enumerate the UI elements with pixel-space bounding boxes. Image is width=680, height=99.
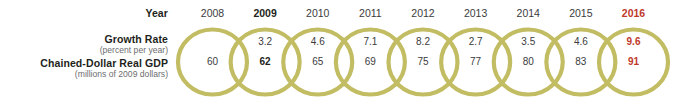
gdp-value: 77 [459,56,493,67]
year-label: 2010 [294,7,342,19]
gdp-value: 83 [564,56,598,67]
year-label: 2011 [346,7,394,19]
row-sublabel-growth-rate: (percent per year) [100,45,168,55]
chained-dollar-gdp-chain-figure: Year Growth Rate (percent per year) Chai… [0,0,680,99]
year-label: 2009 [241,7,289,19]
growth-rate-value: 9.6 [617,36,651,47]
gdp-value: 91 [617,56,651,67]
gdp-value: 60 [196,56,230,67]
growth-rate-value: 7.1 [353,36,387,47]
gdp-value: 75 [406,56,440,67]
gdp-value: 69 [353,56,387,67]
gdp-value: 62 [248,56,282,67]
year-label: 2014 [504,7,552,19]
gdp-value: 80 [511,56,545,67]
growth-rate-value: 8.2 [406,36,440,47]
year-label: 2012 [399,7,447,19]
gdp-value: 65 [301,56,335,67]
row-label-gdp: Chained-Dollar Real GDP [40,57,168,69]
growth-rate-value: 4.6 [564,36,598,47]
year-label: 2008 [189,7,237,19]
year-label: 2015 [557,7,605,19]
growth-rate-value: 3.5 [511,36,545,47]
year-label: 2013 [452,7,500,19]
growth-rate-value: 2.7 [459,36,493,47]
growth-rate-value: 4.6 [301,36,335,47]
row-label-year: Year [145,7,168,19]
row-sublabel-gdp: (millions of 2009 dollars) [75,69,168,79]
year-label: 2016 [610,7,658,19]
row-label-growth-rate: Growth Rate [104,33,168,45]
growth-rate-value: 3.2 [248,36,282,47]
